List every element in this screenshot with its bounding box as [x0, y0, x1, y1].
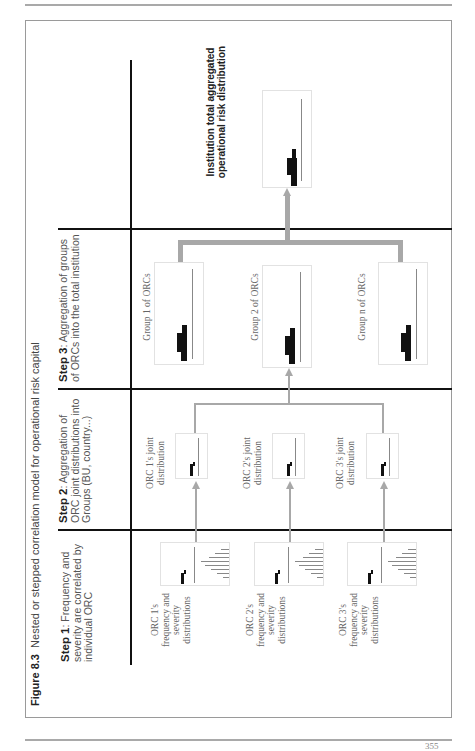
orc2-joint-chart: [272, 433, 305, 479]
step2-header: Step 2: Aggregation of ORC joint distrib…: [58, 391, 93, 523]
orc2-freq-sev-chart: [254, 542, 324, 586]
orc1-joint-chart: [175, 433, 208, 479]
group2-label: Group 2 of ORCs: [250, 262, 261, 352]
final-distribution-chart: [262, 90, 312, 188]
orc1-freq-sev-chart: [160, 542, 230, 586]
orc3-joint-label: ORC 3's joint distribution: [335, 433, 356, 493]
connector-orc3-joint: [382, 403, 384, 433]
orc1-freq-sev-label: ORC 1's frequency and severity distribut…: [150, 585, 192, 655]
header-divider-vertical: [130, 60, 132, 665]
connector-orc2: [289, 488, 291, 546]
connector-group1: [178, 240, 183, 262]
groupn-label: Group n of ORCs: [357, 262, 368, 352]
bottom-rule: [25, 739, 452, 741]
orc3-joint-chart: [366, 433, 399, 479]
orc3-freq-sev-label: ORC 3's frequency and severity distribut…: [338, 585, 380, 655]
orc1-joint-label: ORC 1's joint distribution: [145, 433, 166, 493]
page-number: 355: [425, 741, 439, 751]
connector-final-stem: [285, 195, 290, 245]
group1-label: Group 1 of ORCs: [142, 262, 153, 352]
connector-orc1-joint: [194, 403, 196, 433]
figure-caption: Figure 8.3 Nested or stepped correlation…: [29, 342, 41, 706]
groupn-chart: [378, 262, 428, 365]
group2-chart: [262, 265, 312, 368]
step1-header: Step 1: Frequency and severity are corre…: [60, 534, 95, 662]
orc2-joint-label: ORC 2's joint distribution: [242, 433, 263, 493]
connector-groupn: [398, 240, 403, 262]
orc2-freq-sev-label: ORC 2's frequency and severity distribut…: [245, 585, 287, 655]
final-distribution-label: Institution total aggregated operational…: [205, 42, 227, 182]
connector-orc3: [383, 488, 385, 546]
divider-final-step3: [58, 228, 452, 230]
connector-step2-bus: [194, 403, 384, 405]
divider-step2-step1: [58, 529, 452, 531]
connector-orc1: [195, 488, 197, 546]
orc3-freq-sev-chart: [347, 542, 417, 586]
connector-step3-bus: [178, 240, 403, 245]
group1-chart: [154, 262, 204, 365]
divider-step3-step2: [58, 388, 452, 390]
figure-title: Nested or stepped correlation model for …: [29, 342, 41, 648]
figure-label: Figure 8.3: [29, 654, 41, 706]
connector-group2-stem: [288, 375, 290, 405]
top-rule: [25, 4, 452, 6]
step3-header: Step 3: Aggregation of groups of ORCs in…: [58, 234, 81, 382]
